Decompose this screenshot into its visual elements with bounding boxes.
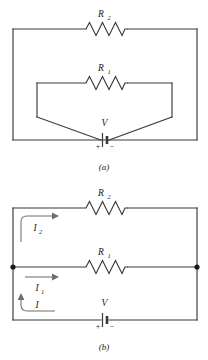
panel-b-resistor-R1-symbol (86, 261, 128, 274)
panel-a-resistor-R2-label: R (97, 9, 104, 19)
panel-a-battery: V + − (96, 118, 115, 151)
panel-b-caption: (b) (99, 342, 110, 352)
circuit-diagram-figure: R 2 R 1 V + − (a) (0, 0, 208, 360)
panel-b-current-I-label: I (34, 300, 39, 310)
panel-a-diagonal-left (37, 117, 101, 140)
panel-b-current-arrow-I: I (18, 293, 55, 311)
panel-b-current-I2-subscript: 2 (39, 228, 43, 235)
panel-a-resistor-R1-symbol (86, 77, 128, 90)
panel-b-resistor-R1-subscript: 1 (108, 252, 111, 259)
panel-a-diagonal-right (109, 117, 172, 140)
panel-b-resistor-R2-label: R (97, 188, 104, 198)
panel-b-junction-dot-left (10, 264, 15, 269)
figure-root: R 2 R 1 V + − (a) (0, 0, 208, 360)
panel-b-battery-label: V (102, 298, 109, 308)
panel-a-resistor-R1-subscript: 1 (108, 68, 111, 75)
panel-b-current-arrow-I2-head (52, 213, 59, 220)
panel-b-current-arrow-I2: I 2 (21, 213, 59, 242)
panel-a-resistor-R2-symbol (86, 23, 128, 36)
panel-b-current-I2-label: I (32, 223, 37, 233)
panel-a-caption: (a) (99, 162, 110, 172)
panel-a: R 2 R 1 V + − (a) (13, 9, 197, 172)
panel-a-battery-label: V (102, 118, 109, 128)
panel-b-resistor-R2-symbol (86, 202, 128, 215)
panel-b-resistor-R1-label: R (97, 247, 104, 257)
panel-b-resistor-R2-subscript: 2 (108, 193, 112, 200)
panel-b-current-arrow-I2-stem (21, 216, 53, 242)
panel-b-current-I1-label: I (34, 283, 39, 293)
panel-a-battery-minus-sign: − (110, 142, 115, 151)
panel-b: R 2 R 1 V + − I 2 (10, 188, 199, 352)
panel-b-current-arrow-I1-head (52, 274, 59, 281)
panel-b-battery: V + − (96, 298, 115, 331)
panel-b-battery-plus-sign: + (96, 322, 101, 331)
panel-a-resistor-R1-label: R (97, 63, 104, 73)
panel-b-junction-dot-right (194, 264, 199, 269)
panel-b-current-arrow-I1: I 1 (25, 274, 59, 295)
panel-a-resistor-R2-subscript: 2 (108, 14, 112, 21)
panel-b-current-I1-subscript: 1 (41, 288, 44, 295)
panel-a-battery-plus-sign: + (96, 142, 101, 151)
panel-b-current-arrow-I-head (18, 293, 25, 300)
panel-b-battery-minus-sign: − (110, 322, 115, 331)
